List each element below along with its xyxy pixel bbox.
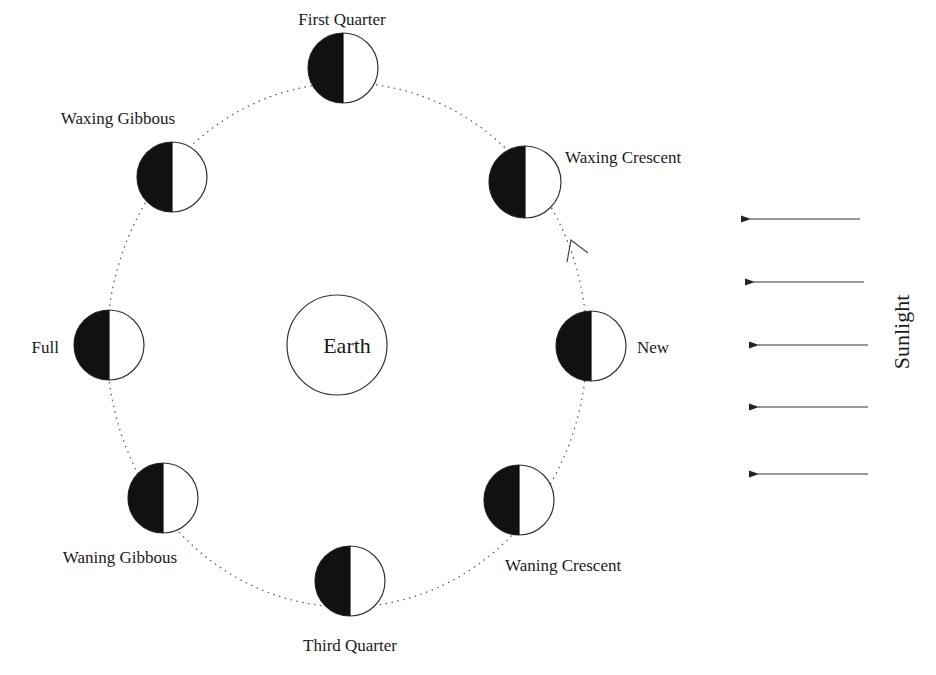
moon-waning-crescent	[484, 465, 554, 535]
moon-dark-half	[489, 146, 525, 218]
moon-dark-half	[556, 311, 591, 381]
phase-label-first-quarter: First Quarter	[298, 10, 386, 29]
moon-dark-half	[484, 465, 519, 535]
moon-phases-diagram: Earth Sunlight First QuarterWaxing Cresc…	[0, 0, 936, 675]
earth: Earth	[287, 295, 387, 395]
earth-label: Earth	[323, 333, 371, 358]
moon-dark-half	[74, 310, 109, 380]
moon-first-quarter	[308, 33, 378, 103]
phase-label-full: Full	[32, 338, 60, 357]
moon-dark-half	[308, 33, 343, 103]
moon-dark-half	[128, 463, 163, 533]
sunlight-label: Sunlight	[889, 295, 914, 370]
moon-dark-half	[137, 142, 172, 212]
phase-label-waxing-crescent: Waxing Crescent	[565, 148, 681, 167]
phase-label-new: New	[637, 338, 670, 357]
moon-full	[74, 310, 144, 380]
sunlight-rays: Sunlight	[750, 219, 914, 474]
orbit-direction-arrow-icon	[567, 240, 588, 262]
direction-chevron	[567, 240, 588, 262]
moon-new	[556, 311, 626, 381]
moon-waning-gibbous	[128, 463, 198, 533]
phase-label-waxing-gibbous: Waxing Gibbous	[61, 109, 175, 128]
phase-label-waning-gibbous: Waning Gibbous	[63, 548, 177, 567]
moon-waxing-gibbous	[137, 142, 207, 212]
moon-waxing-crescent	[489, 146, 561, 218]
phase-label-waning-crescent: Waning Crescent	[505, 556, 621, 575]
moon-third-quarter	[315, 546, 385, 616]
phase-label-third-quarter: Third Quarter	[303, 636, 397, 655]
